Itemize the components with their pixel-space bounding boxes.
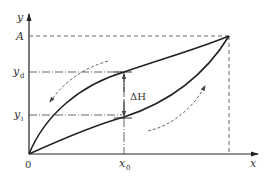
delta-h-label: ΔH <box>130 91 146 102</box>
hysteresis-diagram: y x 0 A y d y i x 0 ΔH <box>0 0 268 178</box>
svg-text:y: y <box>12 65 20 78</box>
lower-curve <box>29 36 229 154</box>
y-axis-label: y <box>16 11 24 24</box>
upper-curve <box>29 36 229 154</box>
x-axis-label: x <box>250 157 257 170</box>
origin-label: 0 <box>25 159 31 170</box>
max-output-label: A <box>15 30 24 43</box>
x0-label: x 0 <box>119 157 130 172</box>
y-increasing-label: y i <box>13 108 24 123</box>
svg-text:0: 0 <box>126 164 130 172</box>
loading-direction-arrow <box>148 86 205 131</box>
svg-text:i: i <box>21 115 24 123</box>
y-decreasing-label: y d <box>12 65 25 80</box>
svg-text:d: d <box>20 72 25 80</box>
svg-text:x: x <box>119 157 126 170</box>
svg-text:y: y <box>13 108 21 121</box>
